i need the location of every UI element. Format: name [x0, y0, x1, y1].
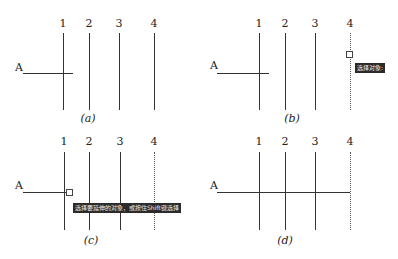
- axis-label-1: 1: [256, 136, 263, 147]
- axis-line-1: [259, 152, 260, 230]
- row-line-a-extended: [217, 192, 350, 193]
- row-label-a: A: [210, 180, 218, 191]
- axis-line-3: [315, 152, 316, 230]
- panel-d: 1 2 3 4 A (d): [0, 0, 398, 259]
- panel-caption: (d): [277, 234, 293, 247]
- axis-label-2: 2: [282, 136, 289, 147]
- axis-label-4: 4: [347, 136, 354, 147]
- axis-line-2: [285, 152, 286, 230]
- axis-line-4-selected: [350, 152, 351, 230]
- axis-label-3: 3: [312, 136, 319, 147]
